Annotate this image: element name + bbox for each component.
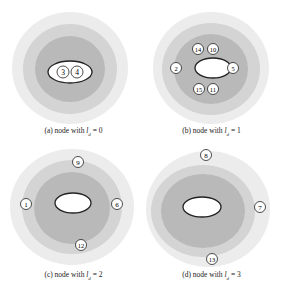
caption-text: (b) node with (182, 126, 224, 135)
node-circle: 9 (73, 157, 84, 168)
node-circle: 12 (76, 240, 87, 251)
caption-value: = 3 (229, 270, 241, 279)
caption-text: (a) node with (44, 126, 86, 135)
node-label: 6 (115, 201, 119, 209)
node-circle: 10 (208, 44, 219, 55)
node-circle: 15 (194, 84, 205, 95)
node-circle: 13 (207, 254, 218, 265)
caption-value: = 0 (91, 126, 103, 135)
caption-a: (a) node with ld = 0 (3, 126, 144, 137)
diagram-canvas: 3 4 14 10 2 5 15 (0, 0, 282, 292)
node-circle: 6 (112, 199, 123, 210)
caption-value: = 1 (229, 126, 241, 135)
node-label: 9 (76, 159, 80, 167)
node-label: 8 (204, 152, 208, 160)
node-circle: 14 (193, 44, 204, 55)
node-label: 10 (210, 46, 217, 53)
core-ellipse (48, 61, 92, 83)
node-circle: 8 (201, 150, 212, 161)
node-label: 4 (75, 68, 79, 77)
node-circle: 5 (228, 63, 239, 74)
node-circle: 1 (21, 199, 32, 210)
node-label: 11 (210, 86, 216, 93)
node-label: 12 (78, 242, 85, 249)
node-circle: 3 (57, 66, 69, 78)
caption-c: (c) node with ld = 2 (3, 270, 144, 281)
node-label: 5 (231, 65, 234, 72)
node-label: 3 (61, 68, 65, 77)
node-circle: 7 (255, 202, 266, 213)
caption-d: (d) node with ld = 3 (141, 270, 282, 281)
node-label: 7 (258, 204, 262, 212)
panel-a-diagram: 3 4 (12, 12, 128, 124)
caption-text: (d) node with (182, 270, 224, 279)
node-circle: 4 (71, 66, 83, 78)
node-circle: 2 (171, 63, 182, 74)
node-label: 15 (196, 86, 203, 93)
caption-text: (c) node with (44, 270, 86, 279)
caption-b: (b) node with ld = 1 (141, 126, 282, 137)
node-label: 1 (24, 201, 28, 209)
node-label: 2 (174, 65, 177, 72)
node-label: 14 (195, 46, 202, 53)
core-ellipse (55, 193, 91, 213)
core-ellipse (195, 58, 231, 78)
node-circle: 11 (208, 84, 219, 95)
core-ellipse (183, 197, 221, 217)
caption-value: = 2 (91, 270, 103, 279)
node-label: 13 (209, 256, 216, 263)
panel-b-diagram: 14 10 2 5 15 11 (153, 12, 269, 124)
panel-c-diagram: 9 1 6 12 (10, 149, 134, 265)
panel-d-diagram: 8 7 13 (146, 150, 270, 268)
